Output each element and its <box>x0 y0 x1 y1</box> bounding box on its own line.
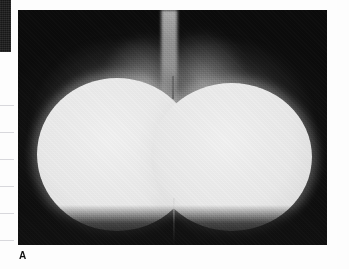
figure-page: A <box>0 0 349 269</box>
inferior-shadow <box>18 205 327 245</box>
margin-rule-line <box>0 105 14 106</box>
margin-rule-line <box>0 186 14 187</box>
figure-panel-label: A <box>19 250 26 262</box>
margin-rule-line <box>0 132 14 133</box>
margin-rule-line <box>0 240 14 241</box>
central-cleft <box>172 76 174 100</box>
margin-rule-line <box>0 213 14 214</box>
radiograph-image <box>18 10 327 245</box>
margin-rule-line <box>0 159 14 160</box>
adjacent-figure-edge <box>0 0 11 52</box>
